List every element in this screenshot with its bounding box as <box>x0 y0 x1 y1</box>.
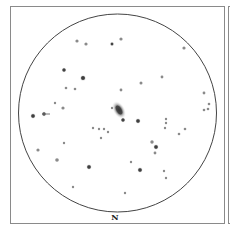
star <box>208 103 211 106</box>
star <box>74 88 77 91</box>
star <box>103 128 105 130</box>
star <box>55 158 59 162</box>
star <box>184 128 187 131</box>
star <box>136 119 141 124</box>
star <box>84 42 87 45</box>
star <box>154 152 157 155</box>
star <box>61 106 64 109</box>
star <box>207 108 210 111</box>
star <box>80 75 85 80</box>
star <box>63 142 65 144</box>
star <box>119 37 122 40</box>
star <box>203 109 206 112</box>
star <box>165 122 167 124</box>
star <box>121 118 125 122</box>
star <box>54 102 56 104</box>
star <box>178 133 181 136</box>
star <box>72 186 74 188</box>
star <box>150 140 153 143</box>
star <box>203 92 206 95</box>
star <box>165 118 167 120</box>
star <box>110 42 114 46</box>
star <box>31 114 36 119</box>
galaxy <box>109 98 129 121</box>
star <box>154 145 159 150</box>
star <box>140 82 143 85</box>
star <box>165 177 167 179</box>
star <box>111 107 113 109</box>
field-of-view-sketch <box>0 0 230 229</box>
star <box>163 170 165 172</box>
star <box>36 148 39 151</box>
north-label: N <box>0 213 230 222</box>
star <box>100 137 102 139</box>
star <box>92 127 94 129</box>
star <box>161 76 164 79</box>
star <box>182 46 185 49</box>
star <box>87 165 92 170</box>
star <box>130 161 132 163</box>
star <box>62 68 66 72</box>
star <box>164 127 166 129</box>
star <box>65 87 68 90</box>
star <box>98 128 100 130</box>
star <box>120 89 123 92</box>
star <box>138 168 143 173</box>
star <box>75 39 78 42</box>
star <box>107 131 109 133</box>
star <box>124 192 126 194</box>
